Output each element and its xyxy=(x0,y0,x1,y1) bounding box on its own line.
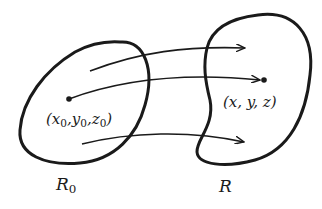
paren-close: ) xyxy=(106,110,112,128)
var-y: y xyxy=(72,110,80,128)
source-point-dot xyxy=(66,96,72,102)
arrow-lower xyxy=(82,134,244,144)
source-point-label: (x0,y0,z0) xyxy=(46,112,112,129)
region-r0-letter: R xyxy=(56,174,69,194)
target-point-label: (x, y, z) xyxy=(223,95,277,110)
target-point-dot xyxy=(261,77,267,83)
var-z: z xyxy=(92,110,100,128)
region-r0-subscript: 0 xyxy=(69,182,77,196)
subscript-zero: 0 xyxy=(80,117,87,129)
arrow-upper xyxy=(90,48,245,71)
mapping-diagram: (x0,y0,z0) (x, y, z) R0 R xyxy=(0,0,322,209)
region-r-outline xyxy=(197,14,311,164)
region-r-label: R xyxy=(219,178,232,195)
region-r0-outline xyxy=(20,42,149,164)
subscript-zero: 0 xyxy=(60,117,67,129)
region-r0-label: R0 xyxy=(56,176,76,196)
